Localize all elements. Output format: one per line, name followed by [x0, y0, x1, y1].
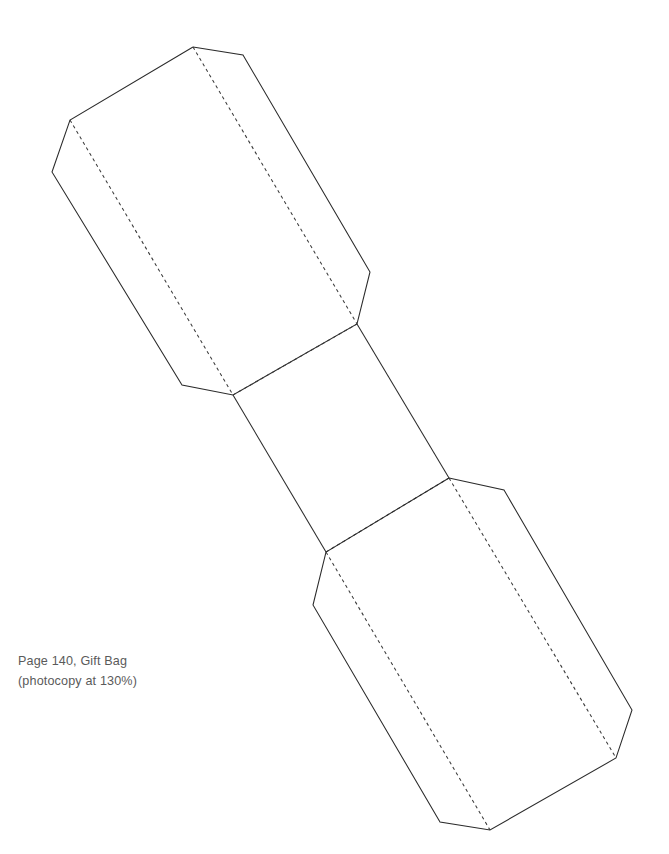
- bottom-panel-fold-right-line: [449, 478, 616, 758]
- top-panel-group: [52, 47, 370, 395]
- caption-line-photocopy-instruction: (photocopy at 130%): [18, 671, 278, 691]
- page-canvas: Page 140, Gift Bag (photocopy at 130%): [0, 0, 669, 854]
- bottom-panel-fold-left-line: [326, 552, 490, 830]
- caption-line-page-reference: Page 140, Gift Bag: [18, 651, 278, 671]
- gift-bag-template-diagram: [0, 0, 669, 854]
- middle-panel-cut-left-line: [233, 395, 326, 552]
- top-panel-fold-left-line: [70, 120, 233, 395]
- bottom-panel-group: [313, 478, 632, 830]
- top-panel-cut-outline: [52, 47, 370, 395]
- bottom-panel-cut-outline: [313, 478, 632, 830]
- top-panel-fold-right-line: [193, 47, 357, 324]
- template-caption: Page 140, Gift Bag (photocopy at 130%): [18, 651, 278, 691]
- middle-panel-cut-right-line: [357, 324, 449, 478]
- middle-panel-group: [233, 324, 449, 552]
